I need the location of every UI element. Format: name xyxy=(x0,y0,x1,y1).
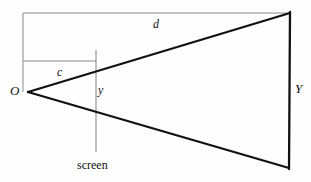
figure-canvas: O c d y Y screen xyxy=(0,0,311,182)
object-vertical-Y xyxy=(289,12,290,169)
label-distance-d: d xyxy=(153,18,159,30)
ray-upper xyxy=(28,13,290,92)
label-object-height-Y: Y xyxy=(295,82,302,95)
label-screen: screen xyxy=(77,159,108,171)
label-distance-c: c xyxy=(57,66,62,78)
label-origin-O: O xyxy=(10,84,19,97)
ray-lower xyxy=(28,92,289,168)
label-image-height-y: y xyxy=(98,84,103,96)
